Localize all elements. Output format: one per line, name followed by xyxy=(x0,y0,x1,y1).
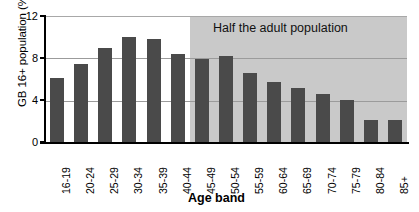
y-tick-label: 0 xyxy=(6,137,38,148)
x-tick-label: 20-24 xyxy=(85,146,96,194)
bar xyxy=(291,88,305,143)
bar xyxy=(98,48,112,143)
x-tick-label: 65-69 xyxy=(302,146,313,194)
x-tick-label: 30-34 xyxy=(133,146,144,194)
bar xyxy=(195,59,209,143)
bar xyxy=(388,120,402,143)
x-tick-label: 55-59 xyxy=(254,146,265,194)
bar xyxy=(316,94,330,143)
bar xyxy=(219,56,233,143)
x-tick-label: 80-84 xyxy=(375,146,386,194)
x-axis-line xyxy=(40,142,409,144)
x-tick-label: 70-74 xyxy=(327,146,338,194)
x-tick-label: 16-19 xyxy=(61,146,72,194)
bar xyxy=(122,37,136,143)
x-tick-label: 75-79 xyxy=(351,146,362,194)
x-tick-label-group: 16-1920-2425-2930-3435-3940-4445-4950-54… xyxy=(45,146,407,190)
y-axis-title: GB 16+ population (%) xyxy=(17,0,29,120)
bar xyxy=(267,82,281,143)
bar-series xyxy=(45,16,407,143)
bar xyxy=(74,64,88,143)
bar xyxy=(340,100,354,143)
plot-area xyxy=(45,16,407,143)
bar xyxy=(171,54,185,143)
bar xyxy=(364,120,378,143)
bar xyxy=(147,39,161,143)
x-tick-label: 40-44 xyxy=(182,146,193,194)
bar-chart: GB 16+ population (%) 12 8 4 0 Half the … xyxy=(0,0,419,212)
bar xyxy=(50,78,64,143)
x-axis-title: Age band xyxy=(0,192,419,205)
x-tick-label: 25-29 xyxy=(109,146,120,194)
bar xyxy=(243,73,257,143)
x-tick-label: 60-64 xyxy=(278,146,289,194)
x-tick-label: 45-49 xyxy=(206,146,217,194)
y-axis-line xyxy=(44,15,46,144)
x-tick-label: 50-54 xyxy=(230,146,241,194)
shaded-region-annotation-label: Half the adult population xyxy=(213,22,348,35)
x-tick-label: 35-39 xyxy=(158,146,169,194)
x-tick-label: 85+ xyxy=(399,146,410,194)
